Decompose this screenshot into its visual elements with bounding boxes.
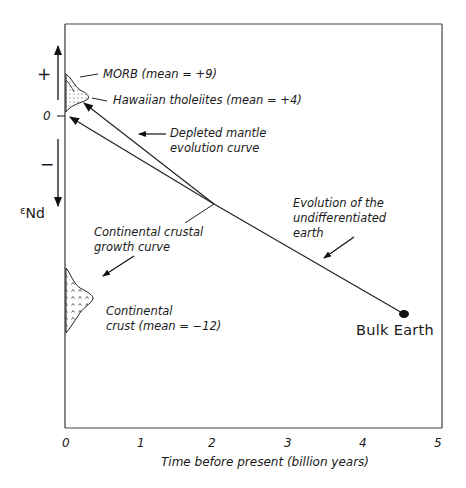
- continental-growth-label-line2: growth curve: [94, 240, 203, 255]
- morb-label: MORB (mean = +9): [103, 67, 217, 82]
- x-tick-0: 0: [62, 436, 70, 450]
- diagram-canvas: [0, 0, 466, 488]
- hawaiian-leader: [92, 98, 107, 101]
- morb-leader: [80, 74, 98, 77]
- x-axis-title: Time before present (billion years): [161, 455, 369, 470]
- x-tick-5: 5: [434, 436, 442, 450]
- morb-distribution: [66, 74, 89, 112]
- depleted-mantle-label: Depleted mantle evolution curve: [170, 126, 266, 156]
- continental-crust-label: Continental crust (mean = −12): [106, 304, 221, 334]
- depleted-mantle-label-line2: evolution curve: [170, 141, 266, 156]
- x-tick-4: 4: [359, 436, 367, 450]
- x-tick-3: 3: [284, 436, 292, 450]
- undifferentiated-label-line3: earth: [293, 226, 386, 241]
- continental-growth-label: Continental crustal growth curve: [94, 225, 203, 255]
- undifferentiated-earth-label: Evolution of the undifferentiated earth: [293, 196, 386, 241]
- bulk-earth-label: Bulk Earth: [356, 322, 434, 338]
- x-tick-2: 2: [208, 436, 216, 450]
- continental-crust-label-line2: crust (mean = −12): [106, 319, 221, 334]
- continental-crust-distribution: [66, 268, 93, 333]
- undifferentiated-label-line1: Evolution of the: [293, 196, 386, 211]
- depleted-mantle-label-line1: Depleted mantle: [170, 126, 266, 141]
- y-axis-zero-label: 0: [43, 109, 51, 123]
- y-axis-plus-label: +: [37, 64, 51, 84]
- undifferentiated-label-line2: undifferentiated: [293, 211, 386, 226]
- bulk-earth-point: [399, 310, 409, 318]
- continental-growth-label-line1: Continental crustal: [94, 225, 203, 240]
- hawaiian-label: Hawaiian tholeiites (mean = +4): [113, 93, 302, 108]
- y-axis-minus-label: −: [40, 154, 54, 174]
- y-axis-title: εNd: [20, 205, 45, 221]
- continental-crust-label-line1: Continental: [106, 304, 221, 319]
- growth-curve-pointer-up: [185, 204, 214, 223]
- x-tick-1: 1: [137, 436, 145, 450]
- growth-curve-pointer-down: [103, 256, 134, 276]
